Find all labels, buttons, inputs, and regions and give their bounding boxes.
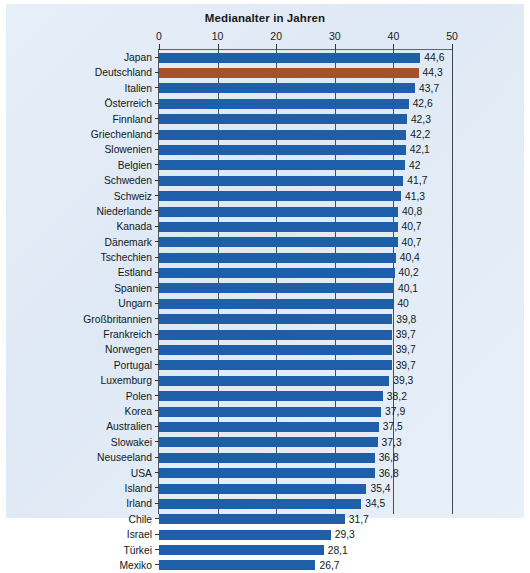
bar[interactable] <box>159 191 401 201</box>
chart-card: Medianalter in Jahren 01020304050 Japan4… <box>6 4 524 518</box>
bar-value-label: 40 <box>397 296 408 311</box>
bar-row[interactable]: Slowakei37,3 <box>159 435 452 450</box>
bar[interactable] <box>159 145 406 155</box>
bar-row[interactable]: Polen38,2 <box>159 389 452 404</box>
bar-value-label: 42 <box>409 158 420 173</box>
category-label: Griechenland <box>91 127 152 142</box>
bar-row[interactable]: Island35,4 <box>159 481 452 496</box>
bar[interactable] <box>159 222 398 232</box>
bar-value-label: 37,3 <box>382 435 402 450</box>
category-label: Australien <box>106 419 152 434</box>
bar-value-label: 39,7 <box>396 358 416 373</box>
bar[interactable] <box>159 130 406 140</box>
bar[interactable] <box>159 453 375 463</box>
bar-row[interactable]: Norwegen39,7 <box>159 342 452 357</box>
bar-row[interactable]: Portugal39,7 <box>159 358 452 373</box>
bar-row[interactable]: Griechenland42,2 <box>159 127 452 142</box>
bar-value-label: 40,7 <box>402 219 422 234</box>
bar[interactable] <box>159 330 392 340</box>
bar-row[interactable]: Schweden41,7 <box>159 173 452 188</box>
bar[interactable] <box>159 376 389 386</box>
bar-row[interactable]: Österreich42,6 <box>159 96 452 111</box>
bar[interactable] <box>159 114 407 124</box>
bar-value-label: 40,8 <box>402 204 422 219</box>
bar[interactable] <box>159 53 420 63</box>
bar-value-label: 31,7 <box>349 512 369 527</box>
bar-row[interactable]: Neuseeland36,8 <box>159 450 452 465</box>
category-label: Spanien <box>114 281 152 296</box>
bar-value-label: 34,5 <box>365 496 385 511</box>
bar[interactable] <box>159 237 398 247</box>
bar-value-label: 40,2 <box>399 265 419 280</box>
bar[interactable] <box>159 560 315 570</box>
plot-right-border <box>452 49 453 514</box>
bar[interactable] <box>159 545 324 555</box>
bar[interactable] <box>159 484 366 494</box>
bar[interactable] <box>159 253 396 263</box>
bar-row[interactable]: Frankreich39,7 <box>159 327 452 342</box>
bar[interactable] <box>159 176 403 186</box>
bar-row[interactable]: Schweiz41,3 <box>159 189 452 204</box>
bar[interactable] <box>159 360 392 370</box>
bar[interactable] <box>159 437 378 447</box>
bar-row[interactable]: Deutschland44,3 <box>159 65 452 80</box>
category-label: Deutschland <box>95 65 152 80</box>
bar[interactable] <box>159 99 409 109</box>
x-axis-tick-label-40: 40 <box>388 30 400 42</box>
bar-row[interactable]: Chile31,7 <box>159 512 452 527</box>
bar-row[interactable]: Kanada40,7 <box>159 219 452 234</box>
category-label: Japan <box>124 50 152 65</box>
bar-row[interactable]: Türkei28,1 <box>159 543 452 558</box>
bar-value-label: 39,7 <box>396 342 416 357</box>
bar-row[interactable]: Israel29,3 <box>159 527 452 542</box>
bar[interactable] <box>159 314 392 324</box>
bar[interactable] <box>159 391 383 401</box>
bar-row[interactable]: Slowenien42,1 <box>159 142 452 157</box>
bar-row[interactable]: Italien43,7 <box>159 81 452 96</box>
bar[interactable] <box>159 422 379 432</box>
bar-row[interactable]: USA36,8 <box>159 466 452 481</box>
bar[interactable] <box>159 83 415 93</box>
category-label: Luxemburg <box>100 373 152 388</box>
bar[interactable] <box>159 283 394 293</box>
bar-row[interactable]: Mexiko26,7 <box>159 558 452 573</box>
bar[interactable] <box>159 268 395 278</box>
bar[interactable] <box>159 299 393 309</box>
bar[interactable] <box>159 499 361 509</box>
bar-value-label: 28,1 <box>328 543 348 558</box>
bar[interactable] <box>159 160 405 170</box>
bar-row[interactable]: Spanien40,1 <box>159 281 452 296</box>
bar[interactable] <box>159 530 331 540</box>
bar-row[interactable]: Großbritannien39,8 <box>159 312 452 327</box>
category-label: Slowenien <box>104 142 152 157</box>
bar-row[interactable]: Belgien42 <box>159 158 452 173</box>
bar-row[interactable]: Japan44,6 <box>159 50 452 65</box>
bar-row[interactable]: Ungarn40 <box>159 296 452 311</box>
bar[interactable] <box>159 514 345 524</box>
bar[interactable] <box>159 68 419 78</box>
bar[interactable] <box>159 345 392 355</box>
x-axis-tickmark-50 <box>452 44 453 50</box>
bar-value-label: 42,1 <box>410 142 430 157</box>
category-label: Slowakei <box>111 435 152 450</box>
bar-value-label: 44,3 <box>423 65 443 80</box>
bar-value-label: 37,9 <box>385 404 405 419</box>
bar-row[interactable]: Australien37,5 <box>159 419 452 434</box>
bar-value-label: 29,3 <box>335 527 355 542</box>
bar-row[interactable]: Korea37,9 <box>159 404 452 419</box>
category-label: Belgien <box>118 158 152 173</box>
bar-value-label: 42,2 <box>410 127 430 142</box>
category-label: Schweiz <box>114 189 152 204</box>
category-label: Neuseeland <box>97 450 152 465</box>
bar[interactable] <box>159 407 381 417</box>
bar-row[interactable]: Finnland42,3 <box>159 112 452 127</box>
bar-row[interactable]: Irland34,5 <box>159 496 452 511</box>
bar-row[interactable]: Luxemburg39,3 <box>159 373 452 388</box>
bar[interactable] <box>159 468 375 478</box>
bar-row[interactable]: Estland40,2 <box>159 265 452 280</box>
bar-value-label: 36,8 <box>379 450 399 465</box>
bar-row[interactable]: Tschechien40,4 <box>159 250 452 265</box>
bar-row[interactable]: Dänemark40,7 <box>159 235 452 250</box>
bar[interactable] <box>159 207 398 217</box>
bar-row[interactable]: Niederlande40,8 <box>159 204 452 219</box>
